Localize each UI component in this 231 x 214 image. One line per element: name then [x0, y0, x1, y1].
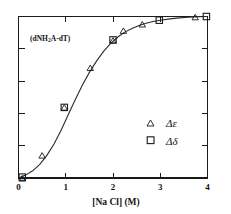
x-tick-label-2: 2 [111, 182, 116, 192]
y-axis-ticks-left [19, 17, 25, 179]
scatter-plot: 0 1 2 3 4 [Na Cl] (M) (dNH2A-dT) Δε Δδ [0, 0, 231, 214]
legend-marker-triangle [147, 120, 154, 126]
annotation-post: A-dT) [51, 34, 71, 43]
x-tick-label-4: 4 [205, 182, 210, 192]
x-axis-title: [Na Cl] (M) [92, 197, 139, 208]
x-axis-tick-labels: 0 1 2 3 4 [16, 182, 210, 192]
y-axis-ticks-right [202, 17, 208, 179]
x-tick-label-3: 3 [158, 182, 163, 192]
x-axis-ticks-top [66, 17, 161, 23]
legend: Δε Δδ [147, 117, 178, 147]
annotation-pre: (dNH [30, 34, 48, 43]
legend-label-delta-epsilon: Δε [165, 117, 177, 129]
legend-label-delta-delta: Δδ [165, 135, 178, 147]
sample-annotation: (dNH2A-dT) [30, 34, 71, 43]
x-axis-ticks-bottom [19, 173, 208, 179]
legend-marker-square [147, 137, 154, 144]
x-tick-label-1: 1 [64, 182, 69, 192]
x-tick-label-0: 0 [16, 182, 21, 192]
figure-container: 0 1 2 3 4 [Na Cl] (M) (dNH2A-dT) Δε Δδ [0, 0, 231, 214]
